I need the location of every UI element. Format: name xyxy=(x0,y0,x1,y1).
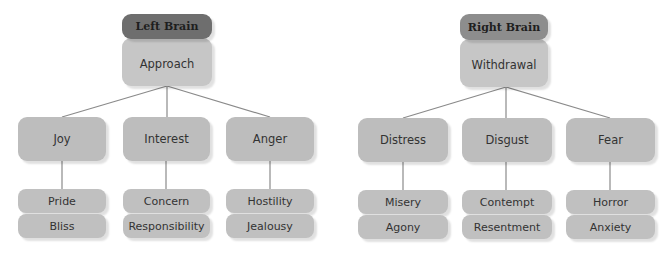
contempt-node: Contempt xyxy=(462,190,552,214)
resentment-node: Resentment xyxy=(462,215,552,239)
concern-node: Concern xyxy=(123,189,210,213)
withdrawal-label: Withdrawal xyxy=(472,58,537,72)
horror-label: Horror xyxy=(593,196,628,209)
joy-node: Joy xyxy=(18,117,106,161)
anxiety-node: Anxiety xyxy=(566,215,655,239)
left-brain-header: Left Brain xyxy=(122,14,212,39)
right-brain-header: Right Brain xyxy=(460,14,548,40)
distress-node: Distress xyxy=(358,118,448,162)
fear-node: Fear xyxy=(566,118,655,162)
interest-node: Interest xyxy=(123,117,210,161)
fear-label: Fear xyxy=(598,133,623,147)
anger-label: Anger xyxy=(253,132,287,146)
contempt-label: Contempt xyxy=(480,196,534,209)
disgust-label: Disgust xyxy=(485,133,528,147)
agony-label: Agony xyxy=(386,221,421,234)
horror-node: Horror xyxy=(566,190,655,214)
right-brain-label: Right Brain xyxy=(468,21,540,34)
hostility-node: Hostility xyxy=(226,189,314,213)
bliss-node: Bliss xyxy=(18,214,106,238)
responsibility-node: Responsibility xyxy=(123,214,210,238)
concern-label: Concern xyxy=(144,195,190,208)
resentment-label: Resentment xyxy=(474,221,540,234)
agony-node: Agony xyxy=(358,215,448,239)
left-brain-label: Left Brain xyxy=(136,20,199,33)
anger-node: Anger xyxy=(226,117,314,161)
joy-label: Joy xyxy=(53,132,70,146)
distress-label: Distress xyxy=(380,133,426,147)
anxiety-label: Anxiety xyxy=(590,221,632,234)
jealousy-label: Jealousy xyxy=(247,220,293,233)
jealousy-node: Jealousy xyxy=(226,214,314,238)
approach-node: Approach xyxy=(122,38,212,86)
bliss-label: Bliss xyxy=(49,220,74,233)
responsibility-label: Responsibility xyxy=(128,220,204,233)
approach-label: Approach xyxy=(140,57,195,71)
hostility-label: Hostility xyxy=(247,195,292,208)
misery-label: Misery xyxy=(385,196,421,209)
disgust-node: Disgust xyxy=(462,118,552,162)
misery-node: Misery xyxy=(358,190,448,214)
withdrawal-node: Withdrawal xyxy=(460,39,548,87)
pride-node: Pride xyxy=(18,189,106,213)
interest-label: Interest xyxy=(144,132,188,146)
pride-label: Pride xyxy=(48,195,76,208)
